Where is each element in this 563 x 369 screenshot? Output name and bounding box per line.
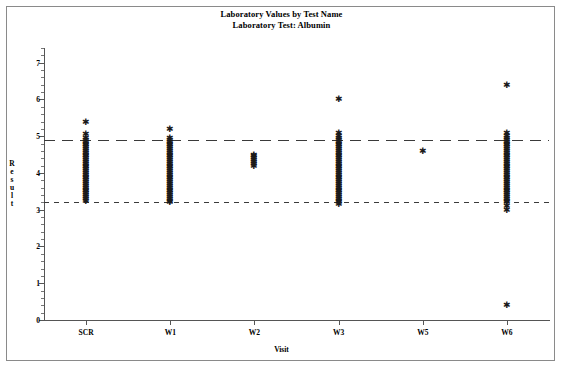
y-tick-minor [41,195,44,196]
data-point-asterisk: ✱ [82,159,90,168]
y-tick-minor [41,291,44,292]
x-tick-label: SCR [79,328,94,337]
data-point-asterisk: ✱ [503,180,511,189]
data-point-asterisk: ✱ [82,146,90,155]
data-point-asterisk: ✱ [166,159,174,168]
data-point-asterisk: ✱ [503,143,511,152]
data-point-asterisk: ✱ [335,189,343,198]
data-point-asterisk: ✱ [166,187,174,196]
data-point-asterisk: ✱ [250,156,258,165]
data-point-asterisk: ✱ [503,181,511,190]
x-tick-label: W3 [333,328,344,337]
data-point-asterisk: ✱ [503,170,511,179]
data-point-asterisk: ✱ [503,163,511,172]
data-point-asterisk: ✱ [503,167,511,176]
data-point-asterisk: ✱ [82,178,90,187]
y-tick-minor [41,298,44,299]
data-point-asterisk: ✱ [166,134,174,143]
data-point-asterisk: ✱ [335,146,343,155]
y-tick-minor [41,77,44,78]
data-point-asterisk: ✱ [503,159,511,168]
data-point-asterisk: ✱ [335,174,343,183]
y-tick-minor [41,92,44,93]
y-tick-label: 7 [36,58,40,67]
y-tick-minor [41,305,44,306]
y-tick-minor [41,158,44,159]
y-tick-label: 6 [36,95,40,104]
data-point-asterisk: ✱ [166,161,174,170]
data-point-asterisk: ✱ [335,163,343,172]
data-point-asterisk: ✱ [166,196,174,205]
y-axis-title: Result [6,160,18,208]
x-tick-mark [339,320,340,325]
y-tick-minor [41,70,44,71]
y-tick-label: 1 [36,279,40,288]
data-point-asterisk: ✱ [335,150,343,159]
data-point-asterisk: ✱ [335,167,343,176]
y-tick-minor [41,269,44,270]
data-point-asterisk: ✱ [335,185,343,194]
data-point-asterisk: ✱ [335,192,343,201]
data-point-asterisk: ✱ [82,174,90,183]
data-point-asterisk: ✱ [503,189,511,198]
data-point-asterisk: ✱ [166,137,174,146]
data-point-asterisk: ✱ [503,150,511,159]
y-tick-minor [41,151,44,152]
data-point-asterisk: ✱ [503,165,511,174]
data-point-asterisk: ✱ [82,168,90,177]
data-point-asterisk: ✱ [335,141,343,150]
data-point-asterisk: ✱ [503,157,511,166]
data-point-asterisk: ✱ [166,157,174,166]
y-tick-minor [41,55,44,56]
y-tick-minor [41,85,44,86]
y-tick-minor [41,232,44,233]
data-point-asterisk: ✱ [503,192,511,201]
data-point-asterisk: ✱ [503,145,511,154]
data-point-asterisk: ✱ [166,181,174,190]
data-point-asterisk: ✱ [335,157,343,166]
x-tick-mark [254,320,255,325]
y-tick-minor [41,224,44,225]
data-point-asterisk: ✱ [503,137,511,146]
y-tick-minor [41,217,44,218]
data-point-asterisk: ✱ [166,185,174,194]
data-point-asterisk: ✱ [166,183,174,192]
data-point-asterisk: ✱ [82,170,90,179]
data-point-asterisk: ✱ [82,161,90,170]
data-point-asterisk: ✱ [335,143,343,152]
data-point-asterisk: ✱ [166,148,174,157]
data-point-asterisk: ✱ [335,154,343,163]
plot-area: 01234567 SCRW1W2W3W5W6 ✱✱✱✱✱✱✱✱✱✱✱✱✱✱✱✱✱… [44,48,549,320]
y-tick-minor [41,129,44,130]
data-point-asterisk: ✱ [166,163,174,172]
data-point-asterisk: ✱ [82,181,90,190]
y-tick-minor [41,144,44,145]
data-point-asterisk: ✱ [82,137,90,146]
data-point-asterisk: ✱ [82,134,90,143]
reference-line-upper-limit-normal [44,140,549,141]
data-point-asterisk: ✱ [82,196,90,205]
data-point-asterisk: ✱ [503,196,511,205]
y-tick-minor [41,122,44,123]
data-point-asterisk: ✱ [335,156,343,165]
data-point-asterisk: ✱ [335,159,343,168]
data-point-asterisk: ✱ [166,168,174,177]
data-point-asterisk: ✱ [166,174,174,183]
data-point-asterisk: ✱ [503,80,511,89]
data-point-asterisk: ✱ [335,191,343,200]
data-point-asterisk: ✱ [82,141,90,150]
y-tick-minor [41,114,44,115]
data-point-asterisk: ✱ [166,172,174,181]
data-point-asterisk: ✱ [335,183,343,192]
data-point-asterisk: ✱ [503,205,511,214]
data-point-asterisk: ✱ [82,185,90,194]
data-point-asterisk: ✱ [166,152,174,161]
x-axis-line [44,320,550,321]
y-tick-minor [41,313,44,314]
data-point-asterisk: ✱ [335,137,343,146]
data-point-asterisk: ✱ [335,95,343,104]
data-point-asterisk: ✱ [503,154,511,163]
data-point-asterisk: ✱ [503,148,511,157]
data-point-asterisk: ✱ [503,178,511,187]
x-tick-mark [423,320,424,325]
